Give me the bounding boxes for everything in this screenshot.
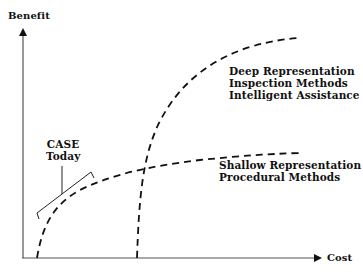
case-label-line-1: CASE — [46, 138, 80, 150]
y-axis-label: Benefit — [8, 10, 50, 22]
deep-curve-label: Deep Representation Inspection Methods I… — [229, 65, 360, 101]
shallow-curve-label: Shallow Representation Procedural Method… — [219, 159, 361, 183]
case-today-label: CASE Today — [46, 138, 80, 162]
deep-label-line-3: Intelligent Assistance — [229, 89, 360, 101]
case-today-bracket — [37, 166, 94, 219]
case-label-line-2: Today — [46, 150, 80, 162]
shallow-label-line-2: Procedural Methods — [219, 171, 361, 183]
x-axis-label: Cost — [327, 252, 352, 264]
deep-label-line-2: Inspection Methods — [229, 77, 360, 89]
shallow-label-line-1: Shallow Representation — [219, 159, 361, 171]
deep-label-line-1: Deep Representation — [229, 65, 360, 77]
